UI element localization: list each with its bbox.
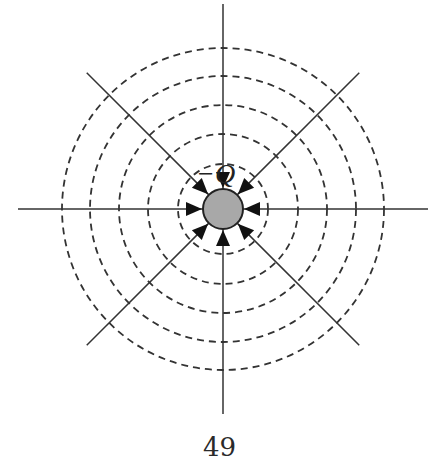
field-line	[87, 73, 209, 195]
arrowhead-icon	[186, 202, 202, 216]
point-charge-sphere	[203, 189, 243, 229]
page-number: 49	[0, 432, 439, 462]
arrowhead-icon	[244, 202, 260, 216]
charge-label: −Q	[196, 158, 235, 189]
field-line	[237, 73, 359, 195]
field-line	[237, 223, 359, 345]
arrowhead-icon	[216, 230, 230, 246]
field-line	[87, 223, 209, 345]
field-diagram: −Q	[0, 0, 439, 467]
